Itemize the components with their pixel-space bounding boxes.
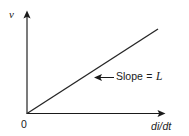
inductor-voltage-vs-current-slope-figure: v di/dt 0 Slope=L xyxy=(0,0,189,136)
slope-annotation-equals: = xyxy=(146,70,152,82)
y-axis-label: v xyxy=(9,9,14,20)
x-axis-label: di/dt xyxy=(151,121,171,132)
slope-annotation-word: Slope xyxy=(116,70,143,82)
slope-annotation-symbol: L xyxy=(156,70,162,82)
slope-annotation-label: Slope=L xyxy=(116,71,162,83)
figure-canvas xyxy=(0,0,189,136)
origin-label: 0 xyxy=(21,119,27,130)
